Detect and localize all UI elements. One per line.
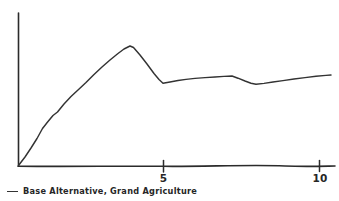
line-chart-canvas: 5 10	[0, 0, 339, 201]
x-tick-label-5: 5	[160, 172, 168, 184]
x-tick-label-10: 10	[312, 172, 327, 184]
chart-legend: Base Alternative, Grand Agriculture	[7, 184, 197, 198]
chart-container: 5 10 Base Alternative, Grand Agriculture	[0, 0, 339, 201]
series-line-base-alternative-grand-agriculture	[19, 46, 332, 166]
legend-line-dash-icon	[7, 191, 18, 192]
x-axis-line	[18, 166, 335, 167]
legend-item-label: Base Alternative, Grand Agriculture	[23, 186, 197, 196]
